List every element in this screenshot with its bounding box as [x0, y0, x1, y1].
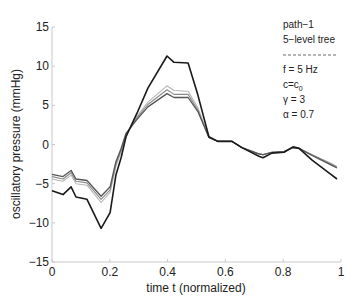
x-tick-label: 0 [49, 265, 56, 279]
x-tick-label: 1 [338, 265, 345, 279]
y-tick-label: −15 [29, 255, 50, 269]
chart-canvas: 00.20.40.60.81−15−10−5051015 time t (nor… [0, 0, 355, 303]
annotation-line: f = 5 Hz [283, 64, 318, 75]
annotation-line: α = 0.7 [283, 109, 315, 120]
tick-labels: 00.20.40.60.81−15−10−5051015 [29, 20, 345, 279]
y-tick-label: 10 [36, 59, 50, 73]
annotation-box: path−15−level treef = 5 Hzc=c0γ = 3α = 0… [283, 19, 337, 120]
x-tick-label: 0.8 [275, 265, 292, 279]
annotation-line: c=c0 [283, 79, 303, 92]
x-tick-label: 0.2 [101, 265, 118, 279]
y-tick-label: −10 [29, 216, 50, 230]
y-tick-label: −5 [35, 177, 49, 191]
plot-axes [52, 27, 341, 262]
annotation-line: 5−level tree [283, 34, 335, 45]
x-tick-label: 0.6 [217, 265, 234, 279]
annotation-line: γ = 3 [283, 94, 305, 105]
y-axis-label: oscillatory pressure (mmHg) [9, 69, 23, 219]
y-tick-label: 15 [36, 20, 50, 34]
y-tick-label: 0 [42, 138, 49, 152]
y-tick-label: 5 [42, 98, 49, 112]
x-axis-label: time t (normalized) [146, 281, 245, 295]
x-tick-label: 0.4 [159, 265, 176, 279]
annotation-line: path−1 [283, 19, 314, 30]
